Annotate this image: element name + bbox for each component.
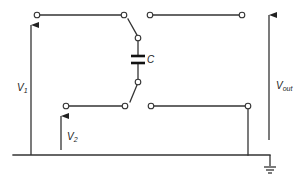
terminal-switch-bottom-left	[122, 103, 128, 109]
terminal-bottom-right	[245, 103, 251, 109]
terminal-switch-top-pivot	[135, 35, 141, 41]
switch-bottom-blade	[130, 85, 137, 102]
terminal-switch-bottom-right	[148, 103, 154, 109]
vout-label: Vout	[276, 80, 293, 92]
v2-label: V2	[67, 131, 78, 143]
terminal-switch-top-left	[121, 12, 127, 18]
terminal-switch-top-right	[147, 12, 153, 18]
capacitor-label: C	[147, 54, 155, 65]
switch-top-blade	[128, 19, 137, 35]
terminal-top-right	[239, 12, 245, 18]
terminal-bottom-left	[63, 103, 69, 109]
circuit-diagram: C V1 V2 Vout	[0, 0, 306, 185]
v1-label: V1	[17, 82, 28, 94]
terminal-top-left	[34, 12, 40, 18]
terminal-switch-bottom-pivot	[135, 79, 141, 85]
